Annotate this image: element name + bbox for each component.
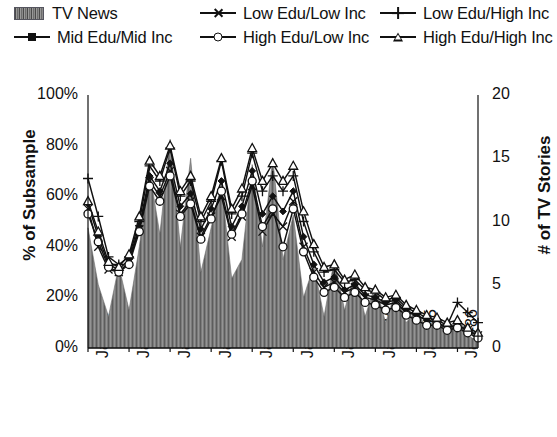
plot-area-wrapper: % of Subsample # of TV Stories 100%80%60… [0, 0, 557, 437]
chart-figure: TV NewsLow Edu/Low IncLow Edu/High IncMi… [0, 0, 557, 437]
chart-canvas [0, 0, 557, 437]
